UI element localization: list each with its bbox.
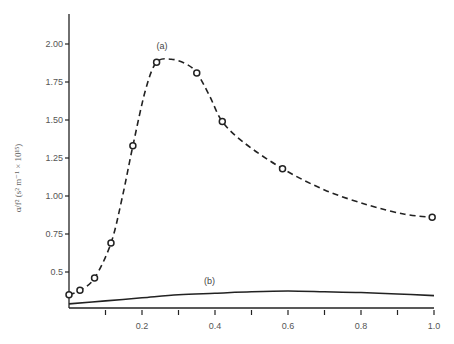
y-axis-label-text: α/f² (s² m⁻¹ × 10¹⁵) (13, 144, 23, 213)
data-point-marker (194, 70, 200, 76)
data-point-marker (66, 292, 72, 298)
y-tick-label: 0.5 (50, 267, 63, 277)
x-tick-label: 0.8 (355, 321, 368, 331)
data-point-marker (154, 59, 160, 65)
series-a (66, 59, 435, 298)
y-tick-label: 1.50 (45, 115, 63, 125)
data-point-marker (92, 275, 98, 281)
series-labels: (a)(b) (157, 41, 215, 287)
x-tick-label: 1.0 (428, 321, 441, 331)
data-point-marker (77, 287, 83, 293)
y-tick-label: 2.00 (45, 39, 63, 49)
x-tick-label: 0.6 (282, 321, 295, 331)
chart: α/f² (s² m⁻¹ × 10¹⁵) 0.50.751.001.251.50… (0, 0, 454, 344)
y-tick-label: 1.00 (45, 191, 63, 201)
series-label: (a) (157, 41, 168, 51)
x-tick-label: 0.2 (136, 321, 149, 331)
series-b-solid-line (69, 291, 434, 304)
axes: 0.50.751.001.251.501.752.000.20.40.60.81… (45, 14, 440, 331)
series-label: (b) (204, 276, 215, 286)
series-a-dashed-line (69, 59, 432, 295)
data-point-marker (280, 166, 286, 172)
data-point-marker (108, 240, 114, 246)
y-tick-label: 1.25 (45, 153, 63, 163)
data-point-marker (219, 119, 225, 125)
data-point-marker (429, 214, 435, 220)
y-axis-label: α/f² (s² m⁻¹ × 10¹⁵) (13, 144, 23, 213)
y-tick-label: 0.75 (45, 229, 63, 239)
data-point-marker (130, 143, 136, 149)
x-tick-label: 0.4 (209, 321, 222, 331)
series-b (69, 291, 434, 304)
y-tick-label: 1.75 (45, 77, 63, 87)
